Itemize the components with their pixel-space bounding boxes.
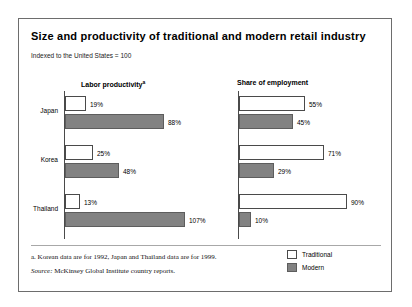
legend-swatch-icon <box>287 263 297 272</box>
bar-modern <box>239 212 251 227</box>
footnote-text: a. Korean data are for 1992, Japan and T… <box>31 253 217 261</box>
bar-modern <box>65 212 185 227</box>
bar-value-label: 107% <box>189 216 206 223</box>
legend-item-label: Traditional <box>302 251 332 258</box>
footer-divider <box>31 245 381 246</box>
bar-group-korea: Korea 25% 48% <box>64 142 229 186</box>
source-text: McKinsey Global Institute country report… <box>53 267 175 275</box>
bar-value-label: 48% <box>123 167 136 174</box>
bar-value-label: 88% <box>168 118 181 125</box>
bar-value-label: 25% <box>97 149 110 156</box>
bar-traditional <box>65 194 80 209</box>
bar-traditional <box>65 96 86 111</box>
chart-panel-share-of-employment: 55% 45% 71% 29% 90% 10% <box>238 91 390 239</box>
bar-value-label: 45% <box>297 118 310 125</box>
panel-title-share-of-employment: Share of employment <box>237 79 308 86</box>
bar-traditional <box>239 194 347 209</box>
category-label-korea: Korea <box>41 156 58 163</box>
source-line: Source: McKinsey Global Institute countr… <box>31 267 175 275</box>
bar-group-japan: Japan 19% 88% <box>64 93 229 137</box>
chart-legend: Traditional Modern <box>287 250 332 276</box>
bar-traditional <box>65 145 93 160</box>
category-label-japan: Japan <box>40 107 58 114</box>
bar-modern <box>239 114 293 129</box>
legend-item-modern: Modern <box>287 263 332 272</box>
panel-title-text: Labor productivity <box>81 81 142 88</box>
legend-item-traditional: Traditional <box>287 250 332 259</box>
bar-group-thailand: Thailand 13% 107% <box>64 191 229 235</box>
chart-panel-labor-productivity: Japan 19% 88% Korea 25% 48% Thailand <box>64 91 229 239</box>
bar-group-japan: 55% 45% <box>238 93 390 137</box>
legend-item-label: Modern <box>302 264 324 271</box>
chart-subtitle: Indexed to the United States = 100 <box>31 52 131 59</box>
panel-title-text: Share of employment <box>237 79 308 86</box>
bar-value-label: 19% <box>90 100 103 107</box>
bar-modern <box>239 163 274 178</box>
bar-traditional <box>239 145 324 160</box>
bar-value-label: 71% <box>328 149 341 156</box>
bar-modern <box>65 114 164 129</box>
page-title: Size and productivity of traditional and… <box>31 30 366 42</box>
footnote-marker: a <box>142 79 145 85</box>
bar-value-label: 29% <box>278 167 291 174</box>
bar-modern <box>65 163 119 178</box>
bar-traditional <box>239 96 305 111</box>
source-label: Source: <box>31 267 53 275</box>
panel-title-labor-productivity: Labor productivitya <box>81 79 145 88</box>
bar-value-label: 13% <box>84 198 97 205</box>
bar-value-label: 55% <box>309 100 322 107</box>
exhibit-panel: Size and productivity of traditional and… <box>18 18 392 292</box>
bar-group-thailand: 90% 10% <box>238 191 390 235</box>
legend-swatch-icon <box>287 250 297 259</box>
category-label-thailand: Thailand <box>33 205 58 212</box>
bar-value-label: 90% <box>351 198 364 205</box>
bar-value-label: 10% <box>255 216 268 223</box>
bar-group-korea: 71% 29% <box>238 142 390 186</box>
